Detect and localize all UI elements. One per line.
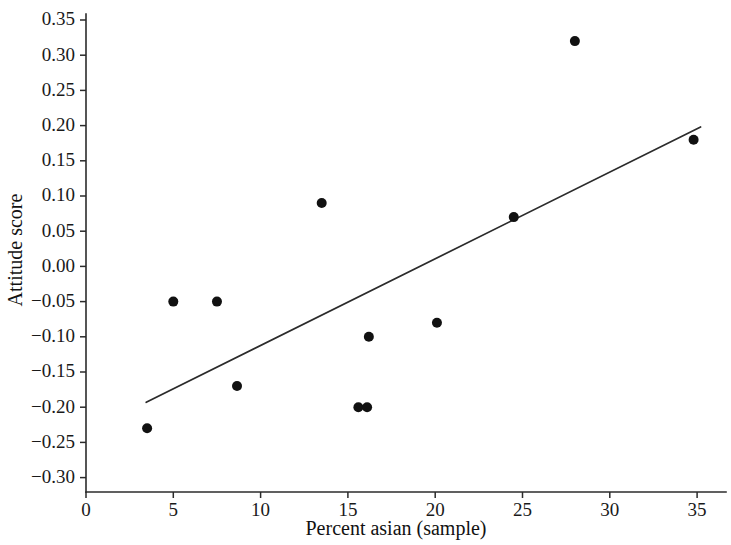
y-tick-label: 0.10 [42,184,75,205]
y-axis-title: Attitude score [4,194,26,307]
data-point [353,402,363,412]
data-point [362,402,372,412]
y-tick-label: −0.10 [31,325,75,346]
data-point [212,297,222,307]
data-point [509,212,519,222]
y-tick-label: −0.25 [31,431,75,452]
data-point [168,297,178,307]
y-tick-label: −0.05 [31,290,75,311]
data-point [364,332,374,342]
y-tick-label: −0.30 [31,466,75,487]
data-point [689,135,699,145]
data-point [317,198,327,208]
y-tick-label: 0.00 [42,255,75,276]
data-point [232,381,242,391]
data-point [142,423,152,433]
y-tick-label: 0.25 [42,79,75,100]
y-tick-label: 0.35 [42,8,75,29]
y-tick-label: 0.15 [42,149,75,170]
scatter-plot-figure: −0.30−0.25−0.20−0.15−0.10−0.050.000.050.… [0,0,731,545]
x-axis-title: Percent asian (sample) [305,517,486,540]
x-tick-label: 10 [251,499,270,520]
data-point [432,318,442,328]
y-tick-label: 0.05 [42,220,75,241]
y-tick-label: −0.15 [31,360,75,381]
y-tick-label: 0.30 [42,44,75,65]
plot-background [0,0,731,545]
data-point [570,36,580,46]
x-tick-label: 30 [600,499,619,520]
y-tick-label: −0.20 [31,396,75,417]
x-tick-label: 0 [81,499,91,520]
x-tick-label: 35 [688,499,707,520]
x-tick-label: 5 [169,499,179,520]
y-tick-label: 0.20 [42,114,75,135]
plot-canvas: −0.30−0.25−0.20−0.15−0.10−0.050.000.050.… [0,0,731,545]
x-tick-label: 25 [513,499,532,520]
